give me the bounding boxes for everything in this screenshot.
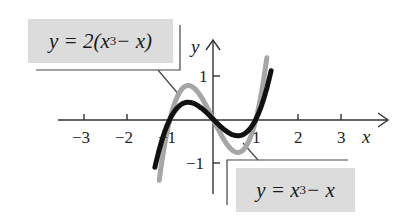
label-top-post: − x) [116,29,152,54]
label-x3-minus-x: y = x3 − x [236,168,355,212]
leader-line-top [158,70,180,96]
x-tick-minus-3: −3 [72,129,90,146]
label-bottom-pre: y = x [256,178,299,203]
y-tick-1: 1 [199,68,208,85]
label-top-pre: y = 2(x [49,29,110,54]
y-axis-label: y [191,37,199,56]
label-2x3-minus-x: y = 2(x3 − x) [28,19,173,63]
x-tick-1: 1 [252,129,261,146]
x-tick-2: 2 [294,129,303,146]
x-tick-3: 3 [337,129,346,146]
x-tick-minus-2: −2 [115,129,133,146]
y-tick-minus-1: −1 [186,155,204,172]
x-tick-minus-1: −1 [158,129,176,146]
x-axis-label: x [362,127,370,146]
label-bottom-post: − x [306,178,335,203]
